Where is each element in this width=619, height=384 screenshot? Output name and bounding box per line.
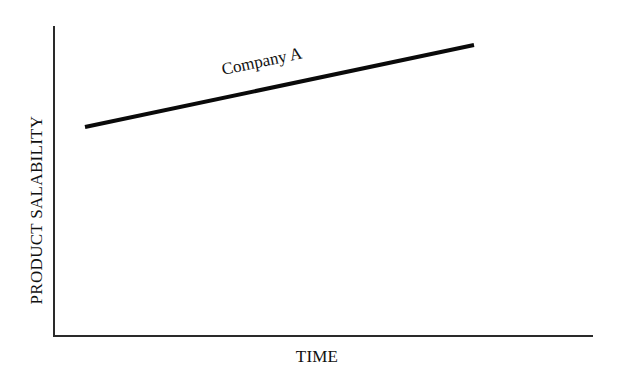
y-axis-label: PRODUCT SALABILITY — [27, 100, 47, 320]
x-axis-label: TIME — [270, 347, 364, 367]
axes — [53, 26, 593, 337]
chart-canvas — [0, 0, 619, 384]
